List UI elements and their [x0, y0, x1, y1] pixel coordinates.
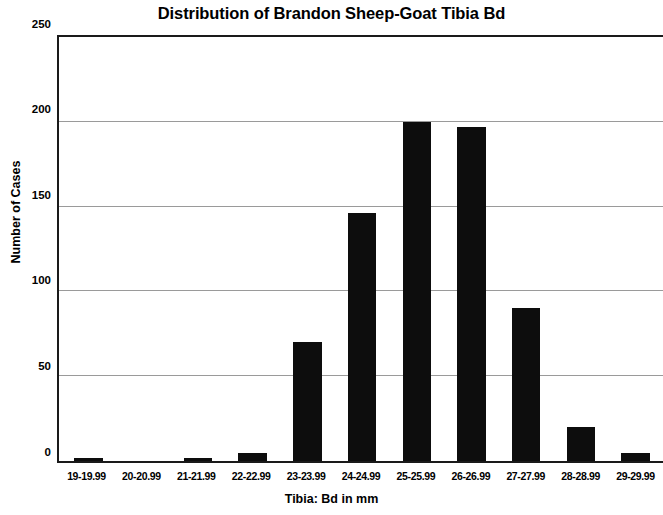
bar-slot — [389, 37, 444, 461]
bar[interactable] — [74, 458, 102, 461]
bar-slot — [335, 37, 390, 461]
bar[interactable] — [621, 453, 649, 461]
x-axis-title: Tibia: Bd in mm — [0, 492, 663, 506]
x-axis-tick-label: 24-24.99 — [334, 470, 389, 482]
bar[interactable] — [293, 342, 321, 461]
bar[interactable] — [403, 122, 431, 461]
bar-slot — [499, 37, 554, 461]
y-axis-tick-label: 200 — [5, 103, 51, 115]
bar-slot — [608, 37, 663, 461]
x-axis-tick-label: 19-19.99 — [59, 470, 114, 482]
bar-slot — [61, 37, 116, 461]
histogram-chart: Distribution of Brandon Sheep-Goat Tibia… — [0, 0, 663, 515]
y-axis-tick-label: 250 — [5, 18, 51, 30]
x-axis-tick-label: 27-27.99 — [498, 470, 553, 482]
bar-slot — [116, 37, 171, 461]
x-axis-tick-label: 20-20.99 — [114, 470, 169, 482]
bar[interactable] — [184, 458, 212, 461]
bar[interactable] — [512, 308, 540, 461]
bar[interactable] — [567, 427, 595, 461]
y-axis-tick-label: 50 — [5, 360, 51, 372]
plot-area — [57, 35, 663, 463]
y-axis-tick-label: 100 — [5, 274, 51, 286]
x-axis-tick-label: 29-29.99 — [608, 470, 663, 482]
bar-slot — [280, 37, 335, 461]
x-axis-tick-labels: 19-19.9920-20.9921-21.9922-22.9923-23.99… — [59, 470, 663, 482]
bar-slot — [444, 37, 499, 461]
x-axis-tick-label: 25-25.99 — [388, 470, 443, 482]
y-axis-tick-labels: 050100150200250 — [0, 35, 51, 463]
x-axis-tick-label: 22-22.99 — [224, 470, 279, 482]
page-title: Distribution of Brandon Sheep-Goat Tibia… — [0, 4, 663, 23]
x-axis-tick-label: 23-23.99 — [279, 470, 334, 482]
bar-slot — [225, 37, 280, 461]
x-axis-tick-label: 26-26.99 — [443, 470, 498, 482]
bar[interactable] — [238, 453, 266, 461]
y-axis-tick-label: 150 — [5, 189, 51, 201]
bar[interactable] — [457, 127, 485, 461]
bar-slot — [170, 37, 225, 461]
bar[interactable] — [348, 213, 376, 461]
x-axis-tick-label: 21-21.99 — [169, 470, 224, 482]
bar-series — [61, 37, 663, 461]
x-axis-tick-label: 28-28.99 — [553, 470, 608, 482]
y-axis-tick-label: 0 — [5, 446, 51, 458]
bar-slot — [554, 37, 609, 461]
